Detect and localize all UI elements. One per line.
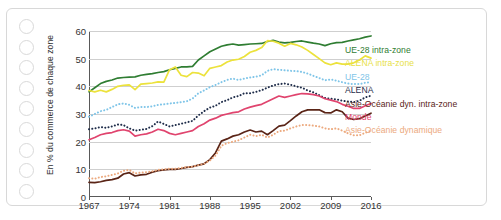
legend-item-label: Monde [345, 112, 372, 122]
punch-hole [19, 163, 34, 178]
punch-hole [19, 19, 34, 34]
legend-item-label: Asie-Océanie dyn. intra-zone [345, 99, 457, 109]
x-axis-tick-label: 1988 [199, 200, 220, 211]
x-axis-tick-label: 1995 [240, 200, 261, 211]
legend-item[interactable]: Asie-Océanie dynamique [345, 125, 487, 138]
y-axis-tick-label: 60 [64, 26, 86, 37]
legend-item-label: Asie-Océanie dynamique [345, 125, 442, 135]
series-line [89, 110, 371, 183]
x-axis-tick-mark [331, 197, 332, 200]
legend-item[interactable]: UE-28 intra-zone [345, 45, 487, 58]
punch-hole [19, 184, 34, 199]
punch-hole [19, 81, 34, 96]
x-axis-tick-mark [170, 197, 171, 200]
legend-item[interactable]: ALENA [345, 85, 487, 98]
x-axis-tick-label: 1981 [159, 200, 180, 211]
legend-item-label: ALENA intra-zone [345, 58, 414, 68]
series-line [89, 84, 371, 131]
x-axis-tick-mark [89, 197, 90, 200]
punch-hole [19, 143, 34, 158]
y-axis-tick-label: 0 [64, 192, 86, 203]
legend-item[interactable]: Monde [345, 112, 487, 125]
x-axis-tick-mark [290, 197, 291, 200]
legend-item[interactable]: UE-28 [345, 72, 487, 85]
y-axis-tick-label: 10 [64, 164, 86, 175]
x-axis-tick-mark [210, 197, 211, 200]
series-line [89, 41, 371, 92]
series-layer [89, 31, 371, 197]
y-axis-tick-label: 50 [64, 53, 86, 64]
x-axis-tick-label: 2009 [320, 200, 341, 211]
y-axis-title-text: En % du commerce de chaque zone [45, 35, 55, 175]
x-axis-tick-label: 1974 [119, 200, 140, 211]
x-axis-tick-mark [250, 197, 251, 200]
punch-hole [19, 122, 34, 137]
punch-holes-decoration [19, 19, 45, 201]
x-axis-tick-label: 2002 [280, 200, 301, 211]
chart-legend: UE-28 intra-zoneALENA intra-zoneUE-28ALE… [345, 45, 487, 139]
x-axis-tick-mark [129, 197, 130, 200]
y-axis-tick-label: 30 [64, 109, 86, 120]
chart-figure: En % du commerce de chaque zone 19671974… [45, 19, 485, 205]
punch-hole [19, 101, 34, 116]
legend-item[interactable]: ALENA intra-zone [345, 58, 487, 71]
punch-hole [19, 60, 34, 75]
x-axis-tick-label: 2016 [360, 200, 381, 211]
plot-area: 19671974198119881995200220092016 [89, 31, 371, 197]
series-line [89, 94, 371, 140]
y-axis-tick-label: 40 [64, 81, 86, 92]
x-axis-tick-mark [371, 197, 372, 200]
chart-card: En % du commerce de chaque zone 19671974… [6, 8, 487, 206]
legend-item[interactable]: Asie-Océanie dyn. intra-zone [345, 99, 487, 112]
legend-item-label: ALENA [345, 85, 373, 95]
punch-hole [19, 40, 34, 55]
legend-item-label: UE-28 intra-zone [345, 45, 411, 55]
y-axis-tick-label: 20 [64, 136, 86, 147]
legend-item-label: UE-28 [345, 72, 370, 82]
y-axis-title: En % du commerce de chaque zone [43, 19, 57, 191]
